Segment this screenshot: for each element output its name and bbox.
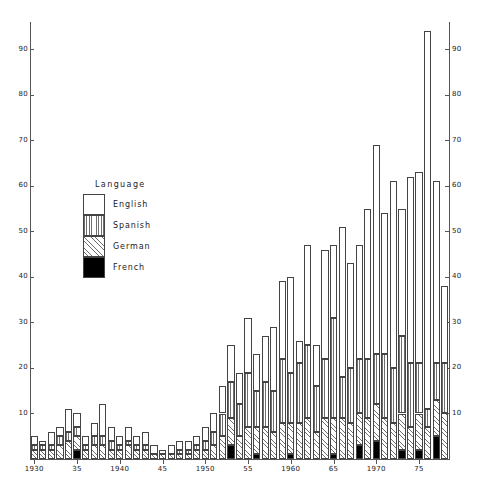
y-tick-label-left: 70 [12,137,28,144]
bar-segment-french [227,445,234,459]
bar-1975 [415,22,422,459]
bar-segment-spanish [296,363,303,422]
bar-segment-spanish [415,363,422,413]
bar-1932 [48,22,55,459]
bar-segment-spanish [116,445,123,450]
legend-label-spanish: Spanish [113,215,151,236]
bar-segment-english [65,409,72,432]
bar-segment-french [356,445,363,459]
bar-segment-german [253,427,260,454]
x-tick [77,460,78,464]
bar-segment-spanish [398,336,405,413]
bar-segment-spanish [424,409,431,427]
bar-segment-german [31,450,38,459]
bar-segment-english [39,441,46,446]
bar-segment-english [364,209,371,359]
x-tick-label: 45 [158,466,168,473]
bar-segment-german [433,400,440,436]
bar-segment-german [262,427,269,459]
bar-segment-english [270,327,277,391]
bar-segment-english [347,263,354,368]
bar-segment-english [176,441,183,450]
bar-segment-spanish [176,450,183,455]
bar-segment-spanish [65,432,72,441]
legend-swatch-spanish [83,215,105,236]
bar-segment-french [373,441,380,459]
bar-segment-spanish [210,432,217,446]
bar-segment-spanish [82,445,89,450]
bar-segment-english [56,427,63,436]
bar-1956 [253,22,260,459]
y-tick-label-left: 90 [12,46,28,53]
bar-segment-french [287,454,294,459]
bar-segment-german [279,423,286,459]
bar-segment-german [296,423,303,459]
bar-segment-spanish [390,368,397,423]
bar-segment-spanish [433,363,440,399]
bar-segment-spanish [142,445,149,450]
bar-segment-spanish [91,436,98,445]
bar-segment-english [381,213,388,354]
bar-segment-english [287,277,294,373]
x-tick-label: 75 [414,466,424,473]
bar-segment-spanish [262,382,269,428]
bar-segment-spanish [48,445,55,450]
x-tick-label: 1940 [110,466,129,473]
bar-segment-spanish [441,363,448,413]
y-tick-label-left: 50 [12,228,28,235]
bar-segment-spanish [31,445,38,450]
bar-segment-spanish [287,373,294,423]
bar-1954 [236,22,243,459]
bar-segment-german [99,445,106,459]
legend-swatch-french [83,257,105,278]
x-tick-label: 1970 [367,466,386,473]
bar-segment-spanish [304,345,311,418]
y-tick-label-right: 30 [452,319,470,326]
bar-segment-english [210,413,217,431]
bar-1944 [150,22,157,459]
bar-1930 [31,22,38,459]
bar-segment-spanish [73,427,80,436]
bar-segment-spanish [381,354,388,418]
bar-segment-german [373,404,380,440]
bar-1946 [168,22,175,459]
bar-segment-english [415,172,422,363]
bar-1970 [373,22,380,459]
y-tick-label-right: 80 [452,91,470,98]
bar-segment-german [65,441,72,459]
bar-segment-german [339,418,346,459]
bar-segment-german [39,450,46,459]
x-tick [163,460,164,464]
bar-1961 [296,22,303,459]
bar-1951 [210,22,217,459]
x-tick-label: 65 [329,466,339,473]
bar-segment-german [415,414,422,450]
bar-segment-spanish [236,404,243,436]
bar-segment-german [347,423,354,459]
bar-segment-german [159,454,166,459]
bar-segment-german [330,418,337,454]
legend-label-french: French [113,257,145,278]
bar-segment-german [304,418,311,459]
bar-segment-spanish [407,363,414,427]
bar-segment-english [116,436,123,445]
bar-1931 [39,22,46,459]
bar-1973 [398,22,405,459]
bar-segment-german [364,418,371,459]
bar-1964 [321,22,328,459]
bar-1968 [356,22,363,459]
bar-segment-spanish [279,359,286,423]
x-tick-label: 55 [243,466,253,473]
bar-1969 [364,22,371,459]
bar-segment-german [390,423,397,459]
bar-1948 [185,22,192,459]
bar-segment-german [424,427,431,459]
x-tick-label: 1960 [281,466,300,473]
bar-segment-german [116,450,123,459]
bar-1974 [407,22,414,459]
y-tick-label-right: 40 [452,273,470,280]
bar-segment-english [313,345,320,386]
bar-segment-german [441,413,448,459]
bar-segment-spanish [193,445,200,450]
bar-segment-german [168,454,175,459]
